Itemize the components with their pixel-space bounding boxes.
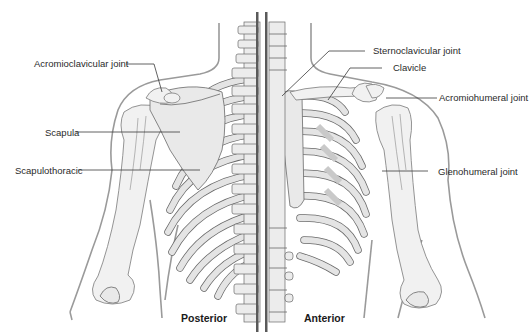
anterior-ribcage <box>283 91 366 272</box>
view-divider-right <box>265 12 268 332</box>
label-scapulothoracic: Scapulothoracic <box>15 165 83 176</box>
label-sternoclavicular-joint: Sternoclavicular joint <box>373 45 461 56</box>
label-glenohumeral-joint: Glenohumeral joint <box>438 166 518 177</box>
left-humerus <box>92 105 163 304</box>
label-acromioclavicular-joint: Acromioclavicular joint <box>34 58 129 69</box>
view-label-posterior: Posterior <box>181 312 227 324</box>
anatomy-diagram: Acromioclavicular joint Scapula Scapulot… <box>0 0 530 332</box>
clavicle <box>290 83 384 102</box>
view-label-anterior: Anterior <box>304 312 345 324</box>
spine-posterior <box>232 22 260 322</box>
right-humerus <box>376 105 442 308</box>
label-scapula: Scapula <box>45 127 80 138</box>
label-clavicle: Clavicle <box>393 62 426 73</box>
view-divider-left <box>256 12 259 332</box>
label-acromiohumeral-joint: Acromiohumeral joint <box>439 92 529 103</box>
